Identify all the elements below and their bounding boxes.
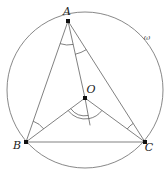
geometry-canvas: A B C O ω	[0, 0, 167, 183]
circumcircle-omega	[7, 12, 163, 168]
vertex-dot-b	[24, 140, 28, 144]
label-center-o: O	[86, 83, 95, 96]
segment-ab	[26, 21, 68, 142]
segment-oa	[68, 21, 85, 98]
segment-ca	[68, 21, 145, 142]
geometry-figure: A B C O ω	[0, 0, 167, 183]
angle-arc-group	[33, 44, 133, 129]
vertex-dot-o	[83, 96, 87, 100]
segment-ob	[26, 98, 85, 142]
label-circle-omega: ω	[144, 33, 151, 42]
label-vertex-a: A	[62, 5, 71, 18]
label-vertex-c: C	[145, 141, 154, 154]
label-vertex-b: B	[12, 139, 21, 152]
angle-bisector-ray	[85, 98, 90, 125]
segment-oc	[85, 98, 145, 142]
vertex-dot-a	[66, 19, 70, 23]
